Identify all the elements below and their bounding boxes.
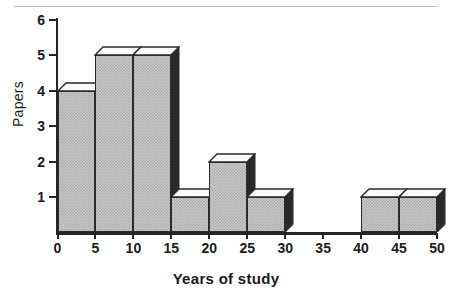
- y-tick-mark: [49, 161, 56, 163]
- y-tick-label: 1: [29, 190, 45, 204]
- y-axis-title: Papers: [10, 64, 26, 144]
- bar-front-face: [247, 197, 285, 232]
- x-tick-label: 10: [118, 241, 148, 255]
- x-tick-mark: [360, 233, 362, 239]
- x-tick-label: 45: [384, 241, 414, 255]
- bar-front-face: [209, 162, 247, 233]
- histogram-figure: 123456 05101520253035404550 Papers Years…: [0, 0, 452, 305]
- x-tick-mark: [398, 233, 400, 239]
- y-tick-label: 3: [29, 119, 45, 133]
- bar-front-face: [361, 197, 399, 232]
- x-tick-mark: [436, 233, 438, 239]
- y-tick-mark: [49, 54, 56, 56]
- bar-front-face: [133, 55, 171, 232]
- bar-front-face: [58, 91, 96, 233]
- y-tick-label: 4: [29, 84, 45, 98]
- bar-side-face: [170, 47, 180, 197]
- x-tick-label: 15: [156, 241, 186, 255]
- x-tick-mark: [170, 233, 172, 239]
- y-tick-mark: [49, 125, 56, 127]
- x-tick-mark: [322, 233, 324, 239]
- y-tick-mark: [49, 19, 56, 21]
- x-tick-mark: [208, 233, 210, 239]
- x-tick-mark: [284, 233, 286, 239]
- y-tick-mark: [49, 90, 56, 92]
- x-axis-title: Years of study: [0, 270, 452, 287]
- x-tick-mark: [246, 233, 248, 239]
- x-tick-label: 20: [194, 241, 224, 255]
- x-tick-label: 30: [270, 241, 300, 255]
- y-tick-mark: [49, 196, 56, 198]
- y-tick-label: 5: [29, 48, 45, 62]
- y-tick-label: 6: [29, 13, 45, 27]
- bar-front-face: [399, 197, 437, 232]
- x-tick-label: 0: [43, 241, 73, 255]
- bar-front-face: [95, 55, 133, 232]
- x-tick-label: 40: [346, 241, 376, 255]
- x-tick-mark: [94, 233, 96, 239]
- y-axis-line: [56, 18, 58, 234]
- x-tick-label: 5: [80, 241, 110, 255]
- y-tick-label: 2: [29, 155, 45, 169]
- x-tick-label: 35: [308, 241, 338, 255]
- x-tick-label: 25: [232, 241, 262, 255]
- x-tick-label: 50: [422, 241, 452, 255]
- x-tick-mark: [57, 233, 59, 239]
- plot-area: 123456 05101520253035404550 Papers Years…: [0, 0, 452, 305]
- x-tick-mark: [132, 233, 134, 239]
- bar-front-face: [171, 197, 209, 232]
